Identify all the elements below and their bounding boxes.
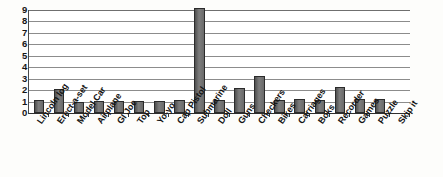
bar-chart: 0123456789 Lincoln logErect-a-setModel C… [0,0,443,177]
x-tick [409,113,410,117]
y-tick-label: 5 [5,52,27,60]
bar [214,100,224,113]
bar [274,100,284,113]
bar [375,99,385,113]
bar [234,88,244,113]
bar [254,76,264,113]
x-axis-ticks [28,113,409,118]
x-tick [269,113,270,117]
x-tick [208,113,209,117]
bar [335,87,345,113]
x-tick [329,113,330,117]
x-tick [349,113,350,117]
x-tick [148,113,149,117]
y-tick-label: 6 [5,40,27,48]
y-tick-label: 0 [5,109,27,117]
bar [174,100,184,113]
bar [134,101,144,113]
bars-layer [29,10,410,113]
x-tick [369,113,370,117]
x-tick [68,113,69,117]
bar [54,89,64,113]
x-tick [309,113,310,117]
x-tick [249,113,250,117]
x-tick [289,113,290,117]
y-tick-label: 2 [5,86,27,94]
x-tick [128,113,129,117]
bar [194,8,204,113]
x-tick [48,113,49,117]
bar [315,100,325,113]
bar [294,99,304,113]
y-tick-label: 9 [5,6,27,14]
bar [94,101,104,113]
y-tick-label: 7 [5,29,27,37]
y-tick-label: 8 [5,17,27,25]
x-tick [188,113,189,117]
x-tick [389,113,390,117]
bar [355,99,365,113]
bar [114,101,124,113]
x-tick [168,113,169,117]
x-tick [88,113,89,117]
plot-area [28,10,410,114]
x-tick [229,113,230,117]
bar [34,100,44,113]
bar [154,101,164,113]
bar [74,102,84,113]
y-tick-label: 4 [5,63,27,71]
x-tick [108,113,109,117]
y-axis: 0123456789 [5,6,27,113]
y-tick-label: 1 [5,98,27,106]
y-tick-label: 3 [5,75,27,83]
